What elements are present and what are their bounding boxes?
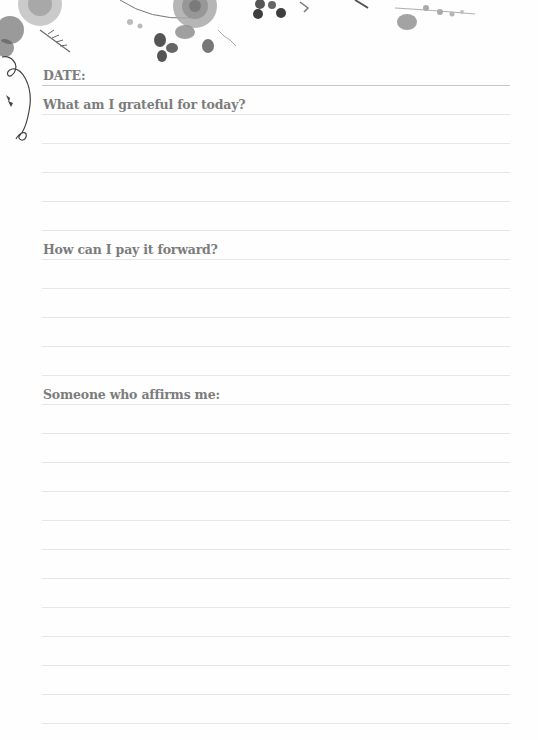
heading-grateful: What am I grateful for today? bbox=[43, 97, 245, 112]
writing-line[interactable] bbox=[42, 114, 510, 115]
writing-line[interactable] bbox=[42, 520, 510, 521]
writing-line[interactable] bbox=[42, 694, 510, 695]
date-field-line[interactable] bbox=[42, 85, 510, 86]
writing-line[interactable] bbox=[42, 549, 510, 550]
writing-line[interactable] bbox=[42, 259, 510, 260]
date-label: DATE: bbox=[43, 68, 85, 83]
writing-line[interactable] bbox=[42, 143, 510, 144]
writing-line[interactable] bbox=[42, 172, 510, 173]
writing-line[interactable] bbox=[42, 433, 510, 434]
writing-line[interactable] bbox=[42, 665, 510, 666]
writing-line[interactable] bbox=[42, 375, 510, 376]
writing-line[interactable] bbox=[42, 288, 510, 289]
writing-line[interactable] bbox=[42, 230, 510, 231]
writing-line[interactable] bbox=[42, 578, 510, 579]
writing-line[interactable] bbox=[42, 201, 510, 202]
writing-line[interactable] bbox=[42, 491, 510, 492]
heading-pay-forward: How can I pay it forward? bbox=[43, 242, 218, 257]
writing-line[interactable] bbox=[42, 404, 510, 405]
writing-line[interactable] bbox=[42, 346, 510, 347]
writing-line[interactable] bbox=[42, 462, 510, 463]
writing-line[interactable] bbox=[42, 636, 510, 637]
writing-line[interactable] bbox=[42, 317, 510, 318]
writing-line[interactable] bbox=[42, 723, 510, 724]
writing-line[interactable] bbox=[42, 607, 510, 608]
heading-affirms: Someone who affirms me: bbox=[43, 387, 220, 402]
journal-page: DATE: What am I grateful for today? How … bbox=[0, 0, 538, 740]
